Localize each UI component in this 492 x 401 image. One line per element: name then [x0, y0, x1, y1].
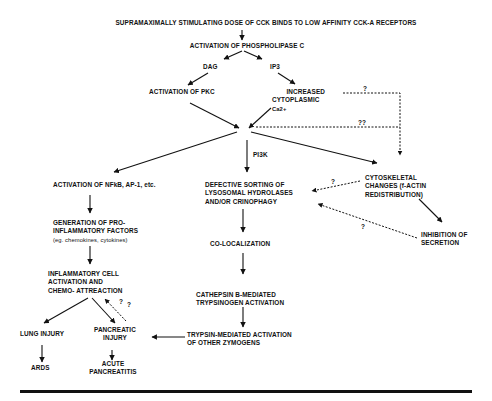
node-text: CYTOPLASMIC — [272, 96, 325, 104]
node-text: CATHEPSIN B-MEDIATED — [196, 291, 284, 299]
node-text: REDISTRIBUTION) — [365, 191, 426, 199]
node-text: INFLAMMATORY FACTORS — [53, 227, 138, 235]
edge-label-ca-cyto-question: ? — [363, 85, 367, 92]
node-text: INJURY — [92, 334, 138, 342]
node-proinflammatory-factors: GENERATION OF PRO- INFLAMMATORY FACTORS … — [53, 219, 138, 244]
node-text: GENERATION OF PRO- — [53, 219, 138, 227]
node-note: (eg. chemokines, cytokines) — [53, 236, 138, 244]
node-text: INHIBITION OF — [421, 231, 467, 239]
node-text: OF OTHER ZYMOGENS — [187, 339, 292, 347]
node-text: LUNG INJURY — [20, 330, 64, 338]
node-activation-pkc: ACTIVATION OF PKC — [149, 88, 215, 96]
node-ards: ARDS — [31, 364, 50, 372]
node-dag: DAG — [203, 63, 218, 71]
node-text: SUPRAMAXIMALLY STIMULATING DOSE OF CCK B… — [101, 19, 431, 27]
node-text: PANCREATITIS — [85, 368, 141, 376]
node-text: TRYPSIN-MEDIATED ACTIVATION — [187, 331, 292, 339]
node-activation-nfkb: ACTIVATION OF NFkB, AP-1, etc. — [53, 181, 156, 189]
node-text: IP3 — [270, 63, 280, 71]
node-text: CHEMO- ATTREACTION — [48, 287, 123, 295]
edge-label-panc-inflam-question-2: ? — [127, 301, 131, 308]
node-cathepsin-b: CATHEPSIN B-MEDIATED TRYPSINOGEN ACTIVAT… — [196, 291, 284, 308]
node-text: DEFECTIVE SORTING OF — [205, 181, 293, 189]
edge-label-cyto-defective-question: ? — [331, 178, 335, 185]
node-text: INCREASED — [276, 88, 325, 96]
node-text: ACTIVATION AND — [48, 278, 123, 286]
edge-label-hub-cyto-question: ?? — [358, 119, 366, 126]
node-text: CHANGES (f-ACTIN — [365, 182, 426, 190]
node-co-localization: CO-LOCALIZATION — [210, 240, 270, 248]
node-text: ACTIVATION OF NFkB, AP-1, etc. — [53, 181, 156, 189]
edge-label-panc-inflam-question-1: ? — [119, 298, 123, 305]
node-text: Ca2+ — [272, 105, 325, 113]
node-text: ACTIVATION OF PKC — [149, 88, 215, 96]
node-text: ACUTE — [85, 360, 141, 368]
node-phospholipase-c: ACTIVATION OF PHOSPHOLIPASE C — [182, 42, 312, 50]
node-ip3: IP3 — [270, 63, 280, 71]
node-cytoskeletal-changes: CYTOSKELETAL CHANGES (f-ACTIN REDISTRIBU… — [365, 174, 426, 199]
node-text: DAG — [203, 63, 218, 71]
edge-label-text: PI3K — [253, 151, 268, 159]
node-text: PANCREATIC — [92, 326, 138, 334]
node-inflammatory-cell-activation: INFLAMMATORY CELL ACTIVATION AND CHEMO- … — [48, 270, 123, 295]
node-text: CYTOSKELETAL — [365, 174, 426, 182]
node-pancreatic-injury: PANCREATIC INJURY — [92, 326, 138, 343]
node-text: CO-LOCALIZATION — [210, 240, 270, 248]
node-text: AND/OR CRINOPHAGY — [205, 198, 293, 206]
node-text: ARDS — [31, 364, 50, 372]
bottom-rule-divider — [20, 390, 472, 393]
node-text: SECRETION — [421, 239, 467, 247]
node-text: INFLAMMATORY CELL — [48, 270, 123, 278]
node-text: LYSOSOMAL HYDROLASES — [205, 189, 293, 197]
node-acute-pancreatitis: ACUTE PANCREATITIS — [85, 360, 141, 377]
node-inhibition-secretion: INHIBITION OF SECRETION — [421, 231, 467, 248]
node-cck-receptor-binding: SUPRAMAXIMALLY STIMULATING DOSE OF CCK B… — [101, 19, 431, 27]
node-increased-calcium: INCREASED CYTOPLASMIC Ca2+ — [276, 88, 325, 113]
edge-label-inhibition-defective-question: ? — [361, 223, 365, 230]
node-trypsin-activation: TRYPSIN-MEDIATED ACTIVATION OF OTHER ZYM… — [187, 331, 292, 348]
node-lung-injury: LUNG INJURY — [20, 330, 64, 338]
node-text: ACTIVATION OF PHOSPHOLIPASE C — [182, 42, 312, 50]
edge-label-pi3k: PI3K — [253, 151, 268, 159]
node-defective-sorting: DEFECTIVE SORTING OF LYSOSOMAL HYDROLASE… — [205, 181, 293, 206]
node-text: TRYPSINOGEN ACTIVATION — [196, 299, 284, 307]
